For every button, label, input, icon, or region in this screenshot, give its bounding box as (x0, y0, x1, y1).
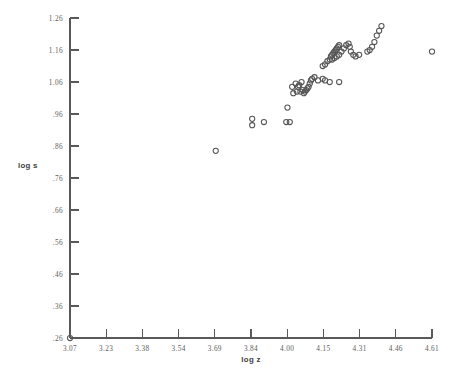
y-tick-label: .56 (53, 238, 63, 247)
y-axis-ticks: 1.261.161.06.96.86.76.66.56.46.36.26 (49, 14, 79, 343)
y-axis-title: log s (18, 161, 38, 170)
data-point (287, 119, 292, 124)
y-tick-label: .26 (53, 334, 63, 343)
y-tick-label: .46 (53, 270, 63, 279)
x-tick-label: 4.46 (389, 344, 403, 353)
data-point (213, 148, 218, 153)
plot-canvas: 1.261.161.06.96.86.76.66.56.46.36.26 3.0… (0, 0, 450, 377)
x-tick-label: 4.00 (280, 344, 294, 353)
x-tick-label: 4.61 (425, 344, 439, 353)
x-axis-ticks: 3.073.233.383.543.693.844.004.154.314.46… (63, 329, 439, 353)
x-tick-label: 4.31 (353, 344, 367, 353)
data-point (337, 79, 342, 84)
x-tick-label: 3.54 (172, 344, 186, 353)
x-tick-label: 3.23 (99, 344, 113, 353)
data-point (250, 123, 255, 128)
y-tick-label: .66 (53, 206, 63, 215)
y-tick-label: 1.06 (49, 78, 63, 87)
x-tick-label: 3.38 (135, 344, 149, 353)
data-point (285, 105, 290, 110)
y-tick-label: 1.26 (49, 14, 63, 23)
x-axis-title: log z (241, 355, 260, 364)
y-tick-label: .96 (53, 110, 63, 119)
y-tick-label: .76 (53, 174, 63, 183)
x-tick-label: 3.07 (63, 344, 77, 353)
y-tick-label: 1.16 (49, 46, 63, 55)
x-tick-label: 4.15 (316, 344, 330, 353)
data-point (429, 49, 434, 54)
scatter-chart: 1.261.161.06.96.86.76.66.56.46.36.26 3.0… (0, 0, 450, 377)
data-point (372, 39, 377, 44)
data-point (250, 116, 255, 121)
data-point (379, 23, 384, 28)
data-point (261, 119, 266, 124)
data-points (67, 23, 434, 340)
y-tick-label: .36 (53, 302, 63, 311)
x-tick-label: 3.69 (208, 344, 222, 353)
x-tick-label: 3.84 (244, 344, 258, 353)
y-tick-label: .86 (53, 142, 63, 151)
data-point (327, 79, 332, 84)
